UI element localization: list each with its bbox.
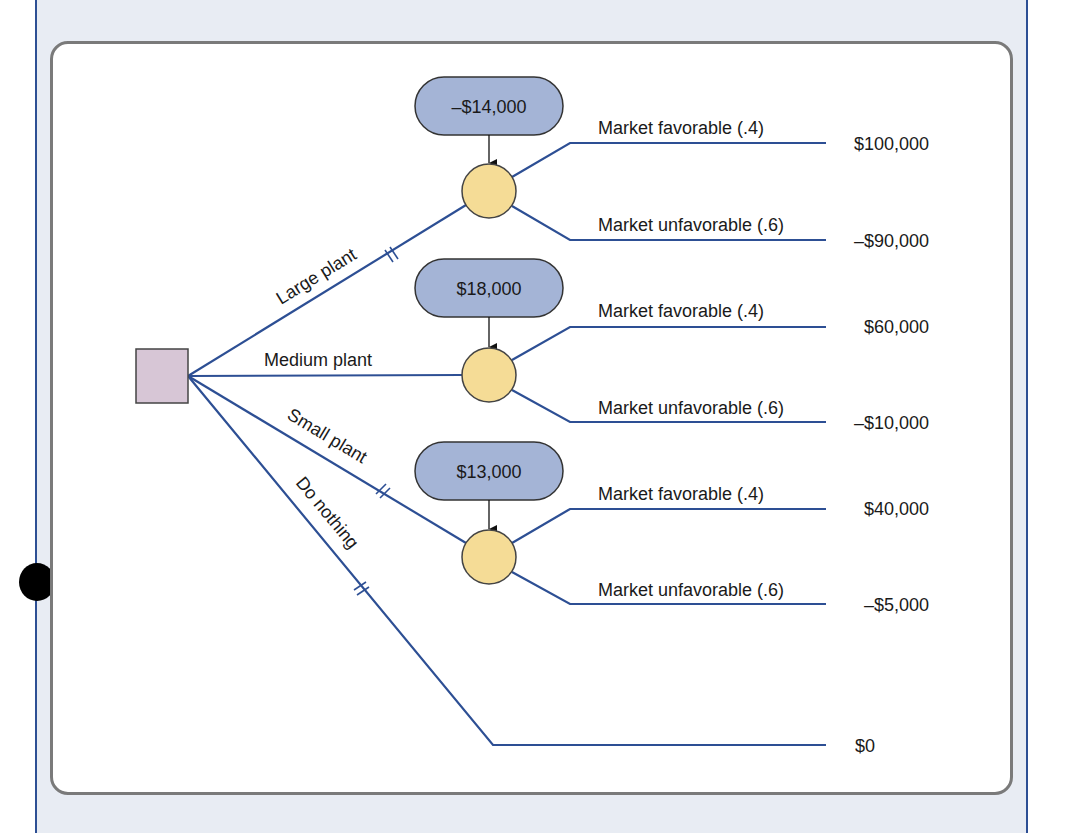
cost-pill: –$14,000 xyxy=(415,77,563,135)
chance-node xyxy=(462,164,516,218)
decision-tree-diagram: –$14,000 $18,000 $13,000 Large plant Med… xyxy=(0,0,1068,833)
outcome-label: Market favorable (.4) xyxy=(598,484,764,504)
payoff-value: $40,000 xyxy=(864,499,929,519)
alternative-label: Medium plant xyxy=(264,350,372,370)
decision-node xyxy=(136,349,188,403)
payoff-value: –$5,000 xyxy=(864,595,929,615)
branch-medium-plant xyxy=(188,375,462,376)
outcome-line xyxy=(512,327,826,360)
alternative-label: Small plant xyxy=(284,404,371,467)
outcome-label: Market favorable (.4) xyxy=(598,301,764,321)
payoff-value: –$10,000 xyxy=(854,413,929,433)
outcome-label: Market unfavorable (.6) xyxy=(598,215,784,235)
chance-node xyxy=(462,530,516,584)
payoff-value: $0 xyxy=(855,736,875,756)
cost-pill: $13,000 xyxy=(415,442,563,500)
payoff-value: –$90,000 xyxy=(854,231,929,251)
outcome-line xyxy=(512,509,826,543)
cost-value: $18,000 xyxy=(456,279,521,299)
cost-value: –$14,000 xyxy=(451,97,526,117)
prune-mark-icon xyxy=(354,247,398,595)
alternative-label: Large plant xyxy=(273,244,360,308)
chance-node xyxy=(462,348,516,402)
outcome-label: Market unfavorable (.6) xyxy=(598,580,784,600)
outcome-label: Market unfavorable (.6) xyxy=(598,398,784,418)
outcome-line xyxy=(512,143,826,177)
alternative-label: Do nothing xyxy=(292,473,363,553)
payoff-value: $100,000 xyxy=(854,134,929,154)
outcome-label: Market favorable (.4) xyxy=(598,118,764,138)
cost-pill: $18,000 xyxy=(415,259,563,317)
payoff-value: $60,000 xyxy=(864,317,929,337)
cost-value: $13,000 xyxy=(456,462,521,482)
